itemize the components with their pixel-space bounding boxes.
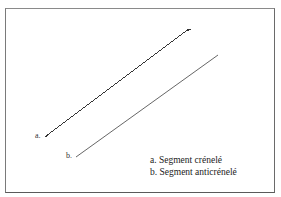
label-b: b. <box>66 152 72 160</box>
segment-a-aliased <box>45 29 191 137</box>
label-a: a. <box>35 132 41 140</box>
segment-b-antialiased <box>76 55 218 157</box>
legend: a. Segment crénelé b. Segment anticrénel… <box>150 154 237 178</box>
legend-item-a: a. Segment crénelé <box>150 154 237 166</box>
legend-item-b: b. Segment anticrénelé <box>150 166 237 178</box>
segments-canvas <box>0 0 281 197</box>
